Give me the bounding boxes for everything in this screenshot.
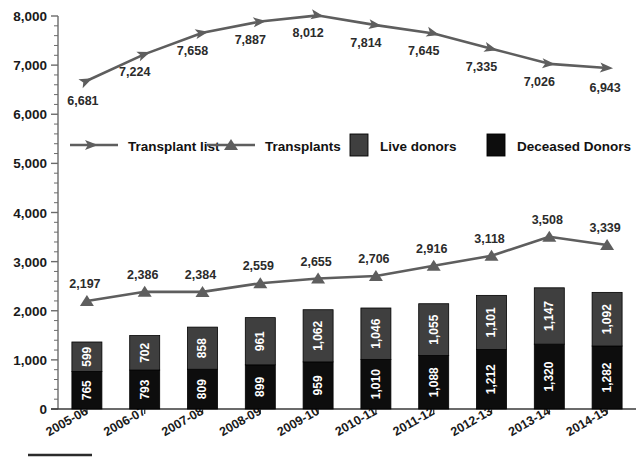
y-axis-tick-label: 3,000 [13, 255, 47, 270]
bar-value-label-live: 1,055 [427, 314, 441, 344]
chart-canvas: 01,0002,0003,0004,0005,0006,0007,0008,00… [0, 0, 638, 470]
data-point-label: 2,655 [300, 255, 331, 269]
arrow-marker-icon [136, 47, 152, 61]
data-point-label: 7,814 [350, 36, 381, 50]
line-series-group [78, 9, 614, 306]
bar-value-label-live: 961 [253, 331, 267, 351]
bar-value-label-live: 1,101 [485, 307, 499, 337]
y-axis-tick-label: 0 [39, 402, 47, 417]
data-point-label: 2,197 [69, 277, 100, 291]
bar-value-label-live: 858 [196, 338, 210, 358]
data-point-label: 7,224 [119, 65, 150, 79]
legend-label: Transplants [265, 139, 341, 154]
bar-value-label-deceased: 1,212 [485, 364, 499, 394]
legend-label: Transplant list [128, 139, 220, 154]
data-point-label: 3,508 [532, 213, 563, 227]
data-point-label: 7,887 [235, 33, 266, 47]
bar-value-label-deceased: 1,282 [600, 362, 614, 392]
bar-value-label-live: 1,147 [542, 301, 556, 331]
y-axis-tick-label: 5,000 [13, 156, 47, 171]
y-axis-tick-label: 2,000 [13, 304, 47, 319]
bar-value-label-deceased: 809 [196, 379, 210, 399]
legend-item[interactable]: Deceased Donors [487, 134, 631, 156]
data-point-label: 6,681 [67, 94, 98, 108]
bar-value-label-deceased: 793 [138, 379, 152, 399]
y-axis-tick-label: 4,000 [13, 206, 47, 221]
data-point-label: 3,118 [474, 232, 505, 246]
y-axis-tick-label: 7,000 [13, 58, 47, 73]
data-point-label: 7,658 [177, 44, 208, 58]
line-series-transplant-list [87, 15, 607, 80]
data-point-label: 7,026 [524, 75, 555, 89]
chart-legend: Transplant listTransplantsLive donorsDec… [70, 134, 631, 156]
legend-item[interactable]: Live donors [350, 134, 457, 156]
legend-swatch-icon [350, 134, 368, 156]
bar-value-label-deceased: 1,320 [542, 361, 556, 391]
bar-series-group [72, 288, 622, 409]
legend-label: Deceased Donors [517, 139, 631, 154]
bar-value-label-deceased: 1,010 [369, 369, 383, 399]
bar-value-label-live: 1,046 [369, 318, 383, 348]
data-point-label: 7,335 [466, 60, 497, 74]
bar-value-label-live: 599 [80, 346, 94, 366]
legend-label: Live donors [380, 139, 457, 154]
data-point-label: 2,384 [185, 268, 216, 282]
data-point-label: 2,916 [416, 242, 447, 256]
y-axis-tick-label: 6,000 [13, 107, 47, 122]
y-axis: 01,0002,0003,0004,0005,0006,0007,0008,00… [13, 9, 58, 417]
arrow-marker-icon [483, 42, 498, 55]
y-axis-tick-label: 1,000 [13, 353, 47, 368]
data-point-label: 2,706 [358, 252, 389, 266]
bar-value-label-live: 702 [138, 342, 152, 362]
arrow-marker-icon [542, 58, 556, 69]
legend-item[interactable]: Transplant list [70, 139, 220, 154]
legend-swatch-icon [487, 134, 505, 156]
bar-value-label-live: 1,092 [600, 304, 614, 334]
legend-item[interactable]: Transplants [207, 139, 341, 154]
line-series-transplants [87, 237, 607, 301]
y-axis-tick-label: 8,000 [13, 9, 47, 24]
bar-value-label-deceased: 899 [253, 377, 267, 397]
data-point-label: 7,645 [408, 44, 439, 58]
bar-value-label-deceased: 765 [80, 380, 94, 400]
data-point-label: 6,943 [589, 81, 620, 95]
bar-value-label-live: 1,062 [311, 320, 325, 350]
data-point-label: 3,339 [589, 221, 620, 235]
data-point-label: 2,559 [243, 259, 274, 273]
bar-value-label-deceased: 959 [311, 375, 325, 395]
chart-container: 01,0002,0003,0004,0005,0006,0007,0008,00… [0, 0, 638, 470]
data-point-label: 2,386 [127, 268, 158, 282]
data-point-label: 8,012 [292, 26, 323, 40]
arrow-marker-icon [78, 74, 94, 89]
bar-value-label-deceased: 1,088 [427, 367, 441, 397]
